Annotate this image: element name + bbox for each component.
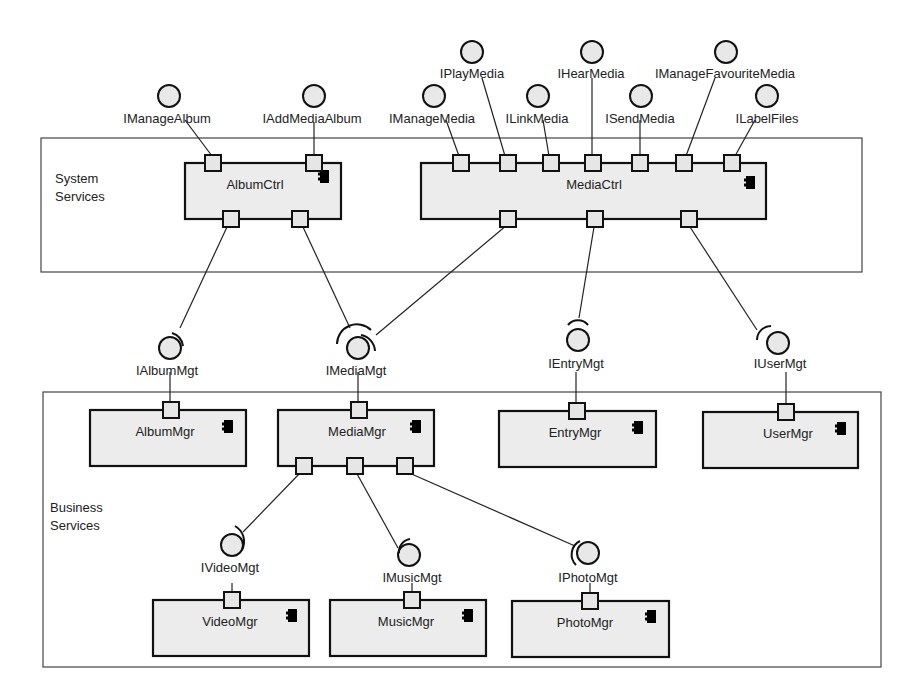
component-label: MusicMgr	[378, 614, 435, 629]
port	[296, 458, 312, 474]
port	[223, 211, 239, 227]
port	[306, 155, 322, 171]
port	[205, 155, 221, 171]
interface-i-manage-media[interactable]: IManageMedia	[389, 85, 476, 126]
port	[292, 211, 308, 227]
interface-label: IHearMedia	[557, 66, 625, 81]
interface-i-manage-album[interactable]: IManageAlbum	[123, 85, 210, 126]
port	[500, 211, 516, 227]
interface-i-link-media[interactable]: ILinkMedia	[506, 85, 570, 126]
system-services-label-1: System	[55, 171, 98, 186]
interface-i-add-media-album[interactable]: IAddMediaAlbum	[263, 85, 362, 126]
component-label: PhotoMgr	[557, 615, 614, 630]
interface-i-play-media[interactable]: IPlayMedia	[440, 41, 505, 81]
port	[681, 211, 697, 227]
component-label: AlbumCtrl	[226, 177, 283, 192]
interface-i-send-media[interactable]: ISendMedia	[605, 85, 675, 126]
component-music-mgr[interactable]: MusicMgr	[330, 592, 486, 656]
interface-label: IAddMediaAlbum	[263, 111, 362, 126]
interface-label: IManageAlbum	[123, 111, 210, 126]
port	[587, 211, 603, 227]
component-album-ctrl[interactable]: AlbumCtrl	[185, 155, 341, 227]
interface-label: ILinkMedia	[506, 111, 570, 126]
component-entry-mgr[interactable]: EntryMgr	[499, 403, 656, 467]
port	[632, 155, 648, 171]
interface-label: IUserMgt	[754, 356, 807, 371]
component-label: MediaCtrl	[566, 177, 622, 192]
component-label: UserMgr	[763, 426, 814, 441]
component-diagram: System Services Business Services	[0, 0, 916, 696]
system-services-label-2: Services	[55, 189, 105, 204]
port	[569, 403, 585, 419]
port	[724, 155, 740, 171]
wires	[170, 78, 786, 594]
business-services-label-1: Business	[50, 500, 103, 515]
interface-label: IEntryMgt	[548, 356, 604, 371]
component-album-mgr[interactable]: AlbumMgr	[90, 402, 246, 466]
assembly-i-album-mgt[interactable]: IAlbumMgt	[136, 333, 199, 378]
port	[453, 155, 469, 171]
interface-label: ILabelFiles	[736, 111, 799, 126]
interface-label: ISendMedia	[605, 111, 675, 126]
port	[224, 592, 240, 608]
assembly-i-music-mgt[interactable]: IMusicMgt	[382, 539, 442, 585]
component-video-mgr[interactable]: VideoMgr	[153, 592, 309, 656]
interface-label: IManageFavouriteMedia	[655, 66, 796, 81]
port	[676, 155, 692, 171]
component-media-mgr[interactable]: MediaMgr	[278, 402, 434, 474]
port	[585, 155, 601, 171]
port	[163, 402, 179, 418]
component-photo-mgr[interactable]: PhotoMgr	[512, 593, 669, 657]
interface-label: IVideoMgt	[201, 560, 260, 575]
assembly-i-user-mgt[interactable]: IUserMgt	[754, 326, 807, 371]
interface-i-manage-favourite-media[interactable]: IManageFavouriteMedia	[655, 41, 796, 81]
port	[397, 458, 413, 474]
port	[778, 404, 794, 420]
component-label: EntryMgr	[549, 425, 602, 440]
assembly-i-entry-mgt[interactable]: IEntryMgt	[548, 320, 604, 371]
port	[582, 593, 598, 609]
port	[351, 402, 367, 418]
component-label: AlbumMgr	[135, 424, 195, 439]
interface-label: IMediaMgt	[326, 363, 387, 378]
interface-label: IMusicMgt	[382, 570, 442, 585]
interface-label: IAlbumMgt	[136, 363, 199, 378]
port	[500, 155, 516, 171]
port	[543, 155, 559, 171]
assembly-i-photo-mgt[interactable]: IPhotoMgt	[558, 541, 618, 585]
interface-label: IPlayMedia	[440, 66, 505, 81]
interface-i-label-files[interactable]: ILabelFiles	[736, 85, 799, 126]
interface-i-hear-media[interactable]: IHearMedia	[557, 41, 625, 81]
port	[347, 458, 363, 474]
interface-label: IPhotoMgt	[558, 570, 618, 585]
component-label: VideoMgr	[202, 614, 258, 629]
component-media-ctrl[interactable]: MediaCtrl	[421, 155, 766, 227]
interface-label: IManageMedia	[389, 111, 476, 126]
business-services-label-2: Services	[50, 518, 100, 533]
assembly-i-video-mgt[interactable]: IVideoMgt	[201, 526, 260, 575]
component-user-mgr[interactable]: UserMgr	[703, 404, 858, 468]
assembly-i-media-mgt[interactable]: IMediaMgt	[326, 324, 387, 378]
port	[404, 592, 420, 608]
component-label: MediaMgr	[328, 424, 386, 439]
